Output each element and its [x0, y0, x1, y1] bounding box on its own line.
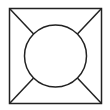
- square-circle-diagram: [0, 0, 110, 110]
- inner-circle: [25, 25, 87, 87]
